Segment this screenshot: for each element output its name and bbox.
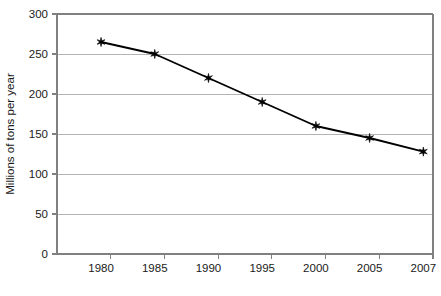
x-tick-label: 2005 (357, 262, 383, 274)
y-tick-label: 300 (29, 8, 48, 20)
y-tick-label: 100 (29, 168, 48, 180)
y-axis-title-label: Millions of tons per year (4, 73, 16, 195)
chart-background (0, 0, 441, 296)
y-axis-title: Millions of tons per year (4, 73, 16, 195)
x-tick-label: 2007 (411, 262, 437, 274)
y-tick-label: 200 (29, 88, 48, 100)
chart-container: 050100150200250300 198019851990199520002… (0, 0, 441, 296)
x-tick-label: 2000 (303, 262, 329, 274)
x-tick-label: 1980 (88, 262, 114, 274)
x-tick-label: 1990 (196, 262, 222, 274)
y-tick-label: 50 (35, 208, 48, 220)
y-tick-label: 250 (29, 48, 48, 60)
x-tick-label: 1995 (249, 262, 275, 274)
x-tick-label: 1985 (142, 262, 168, 274)
y-tick-label: 150 (29, 128, 48, 140)
y-tick-label: 0 (42, 248, 48, 260)
line-chart: 050100150200250300 198019851990199520002… (0, 0, 441, 296)
